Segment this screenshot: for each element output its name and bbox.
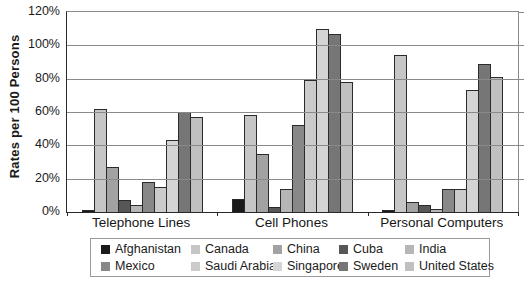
legend-item-india: India <box>405 242 494 256</box>
gridline <box>67 112 518 113</box>
y-axis-tick-label: 40% <box>0 137 60 151</box>
y-axis-tick-label: 100% <box>0 37 60 51</box>
y-axis-labels: 120%100%80%60%40%20%0% <box>0 11 60 211</box>
legend-swatch-saudi-arabia <box>191 262 200 271</box>
y-axis-tick-label: 80% <box>0 71 60 85</box>
right-axis-tick <box>518 145 524 146</box>
y-axis-tick-label: 0% <box>0 204 60 218</box>
category-label-cell-phones: Cell Phones <box>216 215 366 230</box>
legend-item-sweden: Sweden <box>339 259 405 273</box>
y-axis-tick-label: 20% <box>0 171 60 185</box>
legend-swatch-united-states <box>405 262 414 271</box>
legend-swatch-cuba <box>339 245 348 254</box>
bar-chart-figure: Rates per 100 Persons 120%100%80%60%40%2… <box>0 0 527 281</box>
legend-item-united-states: United States <box>405 259 494 273</box>
x-axis-tick <box>518 212 519 216</box>
bar-united-states-telephone-lines <box>190 117 203 212</box>
legend-item-mexico: Mexico <box>101 259 191 273</box>
legend-label: Afghanistan <box>115 242 181 256</box>
legend-item-cuba: Cuba <box>339 242 405 256</box>
legend-item-afghanistan: Afghanistan <box>101 242 191 256</box>
gridline <box>67 179 518 180</box>
legend-label: United States <box>419 259 494 273</box>
category-label-personal-computers: Personal Computers <box>367 215 517 230</box>
legend-label: Mexico <box>115 259 155 273</box>
legend-swatch-afghanistan <box>101 245 110 254</box>
legend-item-canada: Canada <box>191 242 273 256</box>
gridline <box>67 79 518 80</box>
legend-swatch-sweden <box>339 262 348 271</box>
legend-swatch-canada <box>191 245 200 254</box>
legend: AfghanistanCanadaChinaCubaIndiaMexicoSau… <box>90 238 490 277</box>
legend-item-china: China <box>273 242 339 256</box>
legend-swatch-china <box>273 245 282 254</box>
category-label-telephone-lines: Telephone Lines <box>66 215 216 230</box>
legend-item-singapore: Singapore <box>273 259 339 273</box>
legend-label: India <box>419 242 446 256</box>
right-axis-tick <box>518 45 524 46</box>
right-axis-tick <box>518 12 524 13</box>
gridline <box>67 145 518 146</box>
gridline <box>67 45 518 46</box>
legend-label: China <box>287 242 320 256</box>
legend-swatch-mexico <box>101 262 110 271</box>
y-axis-tick-label: 120% <box>0 4 60 18</box>
bar-united-states-cell-phones <box>340 82 353 212</box>
legend-item-saudi-arabia: Saudi Arabia <box>191 259 273 273</box>
legend-label: Sweden <box>353 259 398 273</box>
legend-swatch-singapore <box>273 262 282 271</box>
legend-swatch-india <box>405 245 414 254</box>
right-axis-tick <box>518 112 524 113</box>
plot-area <box>66 11 519 213</box>
x-axis-category-labels: Telephone LinesCell PhonesPersonal Compu… <box>66 215 517 230</box>
legend-label: Cuba <box>353 242 383 256</box>
bar-china-cell-phones <box>256 154 269 212</box>
legend-label: Singapore <box>287 259 344 273</box>
right-axis-tick <box>518 79 524 80</box>
right-axis-tick <box>518 179 524 180</box>
y-axis-tick-label: 60% <box>0 104 60 118</box>
legend-label: Saudi Arabia <box>205 259 276 273</box>
legend-label: Canada <box>205 242 249 256</box>
